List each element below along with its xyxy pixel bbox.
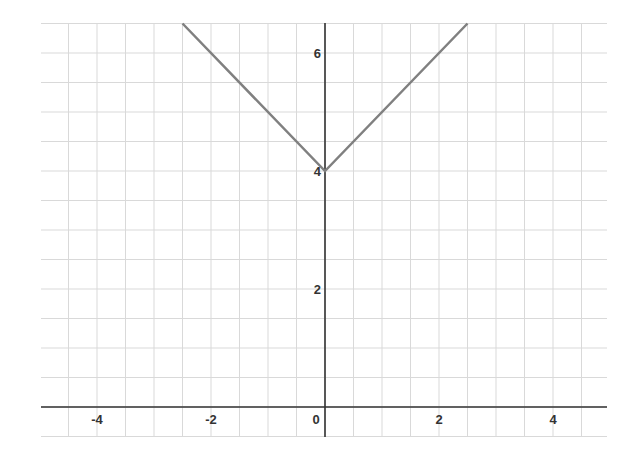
x-tick-label: -2 (205, 412, 217, 427)
x-tick-label: 2 (435, 412, 442, 427)
x-tick-label: 4 (549, 412, 557, 427)
grid-lines (41, 23, 607, 437)
y-tick-label: 2 (314, 282, 321, 297)
y-tick-label: 6 (314, 46, 321, 61)
x-tick-label: -4 (91, 412, 103, 427)
graph-canvas: -4-2024246 (0, 0, 640, 455)
x-tick-label: 0 (312, 412, 319, 427)
